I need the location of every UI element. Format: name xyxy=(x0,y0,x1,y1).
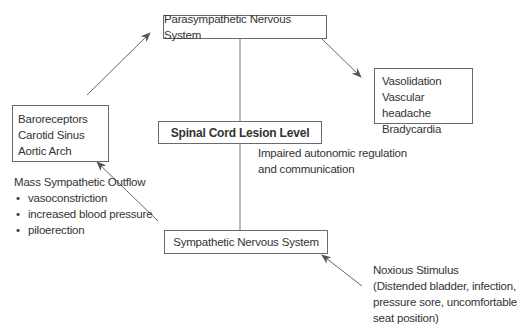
list-item: increased blood pressure xyxy=(14,206,152,222)
mass-sympathetic-outflow: Mass Sympathetic Outflow vasoconstrictio… xyxy=(14,174,152,238)
spinal-cord-label: Spinal Cord Lesion Level xyxy=(171,125,310,141)
noxious-line: (Distended bladder, infection, xyxy=(373,278,517,294)
noxious-stimulus-annotation: Noxious Stimulus (Distended bladder, inf… xyxy=(373,262,517,326)
arrow-parasympathetic-to-effects xyxy=(321,38,361,77)
baroreceptor-item: Baroreceptors xyxy=(18,111,101,127)
spinal-cord-lesion-node: Spinal Cord Lesion Level xyxy=(158,121,322,144)
baroreceptor-item: Aortic Arch xyxy=(18,143,101,159)
noxious-title: Noxious Stimulus xyxy=(373,262,517,278)
impaired-regulation-annotation: Impaired autonomic regulation and commun… xyxy=(258,145,407,177)
arrow-baroreceptors-to-parasympathetic xyxy=(87,33,150,95)
baroreceptors-node: Baroreceptors Carotid Sinus Aortic Arch xyxy=(12,105,109,162)
effect-item: Vascular headache xyxy=(382,89,465,121)
sympathetic-node: Sympathetic Nervous System xyxy=(164,230,328,254)
mass-outflow-title: Mass Sympathetic Outflow xyxy=(14,174,152,190)
list-item: piloerection xyxy=(14,222,152,238)
sympathetic-label: Sympathetic Nervous System xyxy=(173,234,319,250)
arrow-noxious-to-sympathetic xyxy=(322,255,362,286)
mass-outflow-list: vasoconstriction increased blood pressur… xyxy=(14,190,152,238)
list-item: vasoconstriction xyxy=(14,190,152,206)
noxious-line: seat position) xyxy=(373,310,517,326)
parasympathetic-node: Parasympathetic Nervous System xyxy=(163,15,327,39)
parasympathetic-effects-node: Vasolidation Vascular headache Bradycard… xyxy=(374,68,473,124)
annotation-line: Impaired autonomic regulation xyxy=(258,145,407,161)
effect-item: Vasolidation xyxy=(382,73,465,89)
effect-item: Bradycardia xyxy=(382,121,465,137)
parasympathetic-label: Parasympathetic Nervous System xyxy=(164,11,326,43)
noxious-line: pressure sore, uncomfortable xyxy=(373,294,517,310)
annotation-line: and communication xyxy=(258,161,407,177)
baroreceptor-item: Carotid Sinus xyxy=(18,127,101,143)
